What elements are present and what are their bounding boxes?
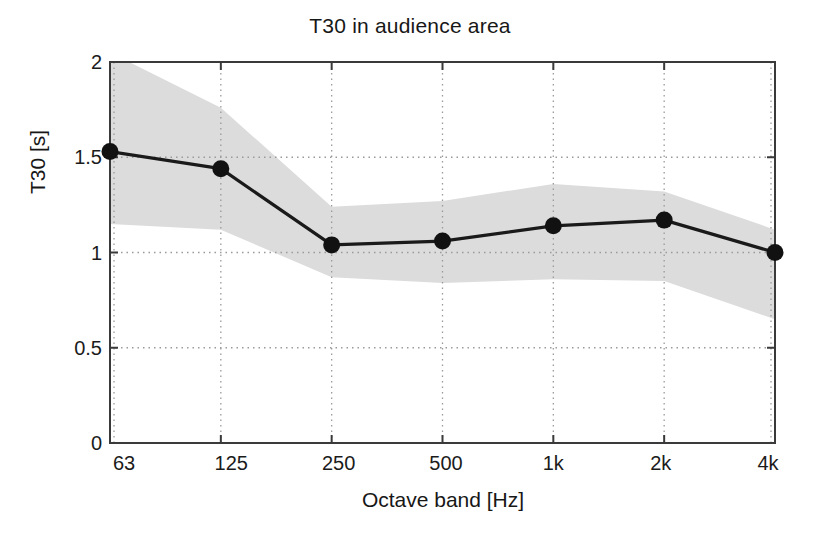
data-point-marker bbox=[434, 233, 451, 250]
data-point-marker bbox=[767, 244, 784, 261]
plot-area bbox=[0, 0, 820, 540]
data-point-marker bbox=[102, 143, 119, 160]
chart-figure: T30 in audience area T30 [s] 0 0.5 1 1.5… bbox=[0, 0, 820, 540]
data-point-marker bbox=[212, 160, 229, 177]
data-point-marker bbox=[545, 217, 562, 234]
data-point-marker bbox=[656, 212, 673, 229]
data-point-marker bbox=[323, 236, 340, 253]
